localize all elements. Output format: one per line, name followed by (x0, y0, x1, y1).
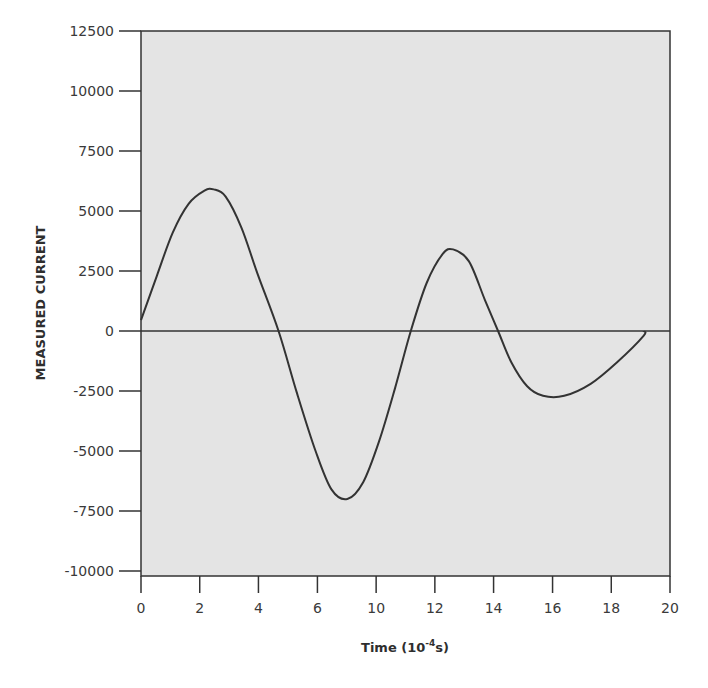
x-tick-label: 12 (426, 600, 444, 616)
y-tick-label: 10000 (69, 83, 114, 99)
y-tick-label: -10000 (64, 563, 114, 579)
x-tick-label: 4 (254, 600, 263, 616)
y-tick-label: 12500 (69, 23, 114, 39)
y-tick-label: -5000 (73, 443, 114, 459)
x-tick-label: 16 (544, 600, 562, 616)
x-tick-label: 6 (313, 600, 322, 616)
x-tick-label: 0 (137, 600, 146, 616)
y-tick-label: -7500 (73, 503, 114, 519)
x-axis-title-main: Time (10 (361, 640, 425, 655)
plot-area (141, 31, 670, 576)
x-tick-label: 2 (195, 600, 204, 616)
x-axis-title: Time (10-4s) (361, 638, 449, 655)
x-tick-label: 10 (367, 600, 385, 616)
y-tick-label: 5000 (78, 203, 114, 219)
x-tick-label: 20 (661, 600, 679, 616)
y-axis: 12500100007500500025000-2500-5000-7500-1… (64, 23, 141, 579)
y-tick-label: 2500 (78, 263, 114, 279)
y-tick-label: -2500 (73, 383, 114, 399)
line-chart: 12500100007500500025000-2500-5000-7500-1… (0, 0, 708, 688)
y-tick-label: 7500 (78, 143, 114, 159)
y-tick-label: 0 (105, 323, 114, 339)
x-tick-label: 14 (485, 600, 503, 616)
y-axis-title: MEASURED CURRENT (33, 225, 48, 380)
x-axis-title-superscript: -4 (425, 638, 435, 648)
x-axis: 0246101214161820 (137, 576, 679, 616)
x-tick-label: 18 (602, 600, 620, 616)
x-axis-title-tail: s) (435, 640, 449, 655)
